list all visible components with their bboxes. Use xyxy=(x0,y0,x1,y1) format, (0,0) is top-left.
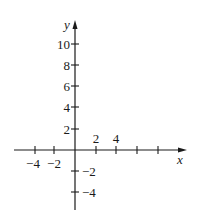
y-tick-label-10: 10 xyxy=(57,37,70,52)
y-tick-label-2: 2 xyxy=(64,122,71,137)
x-tick-label-2: 2 xyxy=(93,131,100,146)
y-tick-label-6: 6 xyxy=(64,79,71,94)
y-tick-label-4: 4 xyxy=(64,100,71,115)
axes-svg: y x 10 8 6 4 2 −2 −4 −4 −2 2 4 xyxy=(0,0,200,221)
y-tick-label-8: 8 xyxy=(64,58,71,73)
x-tick-label-neg4: −4 xyxy=(26,156,40,171)
y-axis-arrow-icon xyxy=(73,20,78,29)
y-axis-label: y xyxy=(62,17,70,32)
x-tick-label-4: 4 xyxy=(113,131,120,146)
x-axis-label: x xyxy=(176,152,183,167)
x-tick-label-neg2: −2 xyxy=(47,156,61,171)
coordinate-axes-figure: y x 10 8 6 4 2 −2 −4 −4 −2 2 4 xyxy=(0,0,200,221)
y-tick-label-neg2: −2 xyxy=(82,164,96,179)
y-tick-label-neg4: −4 xyxy=(82,185,96,200)
